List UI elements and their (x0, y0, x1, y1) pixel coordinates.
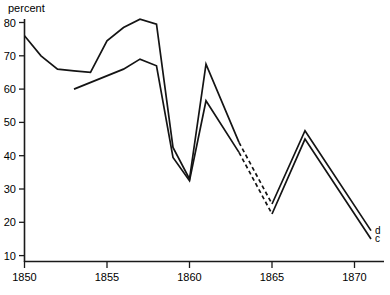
series-line-c-solid-early (74, 59, 239, 181)
x-tick-label: 1865 (260, 271, 284, 283)
x-tick-label: 1860 (177, 271, 201, 283)
series-label-c: c (375, 233, 380, 244)
y-tick-label: 30 (4, 183, 16, 195)
y-tick-label: 40 (4, 150, 16, 162)
y-axis-tick-labels: 80 70 60 50 40 30 20 10 (4, 17, 16, 262)
y-axis-title: percent (8, 2, 45, 14)
x-tick-label: 1850 (12, 271, 36, 283)
y-tick-label: 70 (4, 50, 16, 62)
chart-container: percent 80 70 60 50 40 30 20 10 (0, 0, 390, 295)
series-layer (25, 19, 372, 239)
series-line-c-solid-late (272, 139, 371, 239)
y-tick-label: 80 (4, 17, 16, 29)
series-line-c-dashed (239, 152, 272, 214)
y-tick-label: 50 (4, 116, 16, 128)
x-tick-label: 1870 (342, 271, 366, 283)
series-line-d-solid-early (25, 19, 240, 179)
y-tick-label: 10 (4, 250, 16, 262)
x-tick-label: 1855 (95, 271, 119, 283)
y-tick-label: 60 (4, 83, 16, 95)
series-line-d-dashed (239, 142, 272, 204)
y-tick-label: 20 (4, 216, 16, 228)
x-axis-tick-labels: 1850 1855 1860 1865 1870 (12, 271, 366, 283)
line-chart: percent 80 70 60 50 40 30 20 10 (0, 0, 390, 295)
